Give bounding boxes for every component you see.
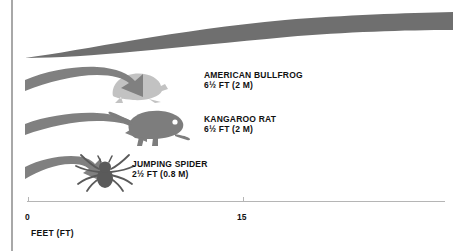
animal-name: KANGAROO RAT: [204, 114, 276, 124]
animal-name: AMERICAN BULLFROG: [204, 70, 303, 80]
x-axis-line: [27, 201, 445, 202]
animal-distance: 6½ FT (2 M): [204, 124, 276, 134]
x-axis-tick-15: [243, 197, 244, 202]
animal-distance: 2½ FT (0.8 M): [132, 169, 208, 179]
x-axis-tick-label-15: 15: [237, 212, 246, 222]
x-axis-title: FEET (FT): [31, 228, 74, 238]
animal-distance: 6½ FT (2 M): [204, 80, 303, 90]
animal-name: JUMPING SPIDER: [132, 159, 208, 169]
label-jumping-spider: JUMPING SPIDER 2½ FT (0.8 M): [132, 159, 208, 180]
x-axis-tick-label-0: 0: [25, 212, 30, 222]
kangaroo-rat-silhouette-icon: [25, 108, 225, 148]
cropped-jump-arc-icon: [25, 14, 453, 58]
x-axis-tick-0: [28, 197, 29, 202]
label-american-bullfrog: AMERICAN BULLFROG 6½ FT (2 M): [204, 70, 303, 91]
chart-row-jumping-spider: [25, 153, 453, 192]
label-kangaroo-rat: KANGAROO RAT 6½ FT (2 M): [204, 114, 276, 135]
chart-row-cropped: [25, 14, 453, 58]
chart-plot-area: AMERICAN BULLFROG 6½ FT (2 M) KANGAROO R…: [0, 0, 453, 196]
jump-distance-infographic: AMERICAN BULLFROG 6½ FT (2 M) KANGAROO R…: [0, 0, 453, 251]
